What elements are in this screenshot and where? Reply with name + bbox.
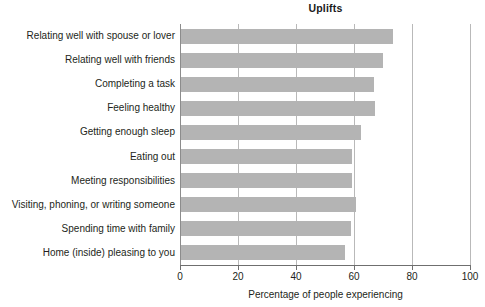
- x-axis-line: [180, 265, 471, 266]
- bar-row[interactable]: [180, 29, 470, 44]
- bar-row[interactable]: [180, 149, 470, 164]
- bar-row[interactable]: [180, 101, 470, 116]
- bar-row[interactable]: [180, 77, 470, 92]
- bar-row[interactable]: [180, 221, 470, 236]
- x-tick-label-100: 100: [450, 271, 485, 282]
- plot-area: [180, 24, 470, 265]
- bar[interactable]: [181, 245, 345, 260]
- category-label: Spending time with family: [4, 223, 180, 234]
- bar-chart: Uplifts Relating well with spouse or lov…: [0, 0, 485, 307]
- x-tick-label-40: 40: [276, 271, 316, 282]
- bar[interactable]: [181, 29, 393, 44]
- bar[interactable]: [181, 77, 374, 92]
- category-label: Meeting responsibilities: [4, 175, 180, 186]
- bar-row[interactable]: [180, 197, 470, 212]
- x-tick-label-80: 80: [392, 271, 432, 282]
- bar[interactable]: [181, 125, 361, 140]
- category-label: Relating well with spouse or lover: [4, 30, 180, 41]
- x-tick-20: [238, 265, 239, 270]
- x-tick-label-0: 0: [160, 271, 200, 282]
- x-tick-0: [180, 265, 181, 270]
- x-tick-80: [412, 265, 413, 270]
- x-tick-label-20: 20: [218, 271, 258, 282]
- x-tick-40: [296, 265, 297, 270]
- x-tick-label-60: 60: [334, 271, 374, 282]
- bar-row[interactable]: [180, 245, 470, 260]
- bar[interactable]: [181, 53, 383, 68]
- x-tick-100: [470, 265, 471, 270]
- bar[interactable]: [181, 221, 351, 236]
- category-label-axis: Relating well with spouse or loverRelati…: [0, 0, 180, 307]
- x-axis-title: Percentage of people experiencing: [180, 289, 471, 300]
- category-label: Home (inside) pleasing to you: [4, 247, 180, 258]
- bar-row[interactable]: [180, 173, 470, 188]
- category-label: Relating well with friends: [4, 54, 180, 65]
- bar[interactable]: [181, 197, 356, 212]
- category-label: Visiting, phoning, or writing someone: [4, 199, 180, 210]
- bar-row[interactable]: [180, 125, 470, 140]
- gridline-100: [470, 24, 471, 265]
- bar-row[interactable]: [180, 53, 470, 68]
- bar[interactable]: [181, 149, 352, 164]
- bar[interactable]: [181, 101, 375, 116]
- category-label: Getting enough sleep: [4, 126, 180, 137]
- chart-title-text: Uplifts: [308, 2, 342, 14]
- category-label: Eating out: [4, 151, 180, 162]
- bar[interactable]: [181, 173, 352, 188]
- x-tick-60: [354, 265, 355, 270]
- category-label: Completing a task: [4, 78, 180, 89]
- category-label: Feeling healthy: [4, 102, 180, 113]
